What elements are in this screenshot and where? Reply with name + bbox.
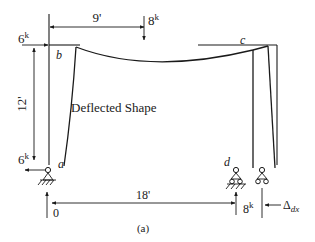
deflected-shape-label: Deflected Shape — [71, 100, 157, 115]
load-value-6k-top: 6k — [18, 30, 30, 46]
load-6k-top: 6k — [18, 30, 48, 46]
roller-support-d — [226, 167, 246, 189]
dimension-label-12ft: 12' — [14, 96, 29, 111]
joint-label-a: a — [58, 157, 64, 171]
pin-d — [233, 167, 238, 172]
roller-wheel-displaced-1 — [256, 179, 261, 184]
displacement-dx: Δdx — [262, 188, 299, 218]
hatch-d-3 — [236, 184, 240, 189]
roller-wheel-d-1 — [230, 179, 235, 184]
hatch-d-1 — [226, 184, 230, 189]
pin-a — [45, 167, 50, 172]
dimension-label-18ft: 18' — [136, 188, 150, 202]
roller-triangle-displaced — [257, 173, 267, 179]
joint-label-c: c — [240, 33, 246, 47]
roller-triangle-d — [231, 173, 241, 179]
reaction-value-0-a: 0 — [53, 206, 59, 220]
roller-wheel-displaced-2 — [264, 179, 269, 184]
displacement-label: Δdx — [283, 198, 299, 214]
dimension-18ft: 18' — [52, 188, 235, 203]
joint-label-d: d — [224, 155, 231, 169]
dimension-label-9ft: 9' — [93, 10, 102, 25]
reaction-value-8k-d: 8k — [243, 200, 254, 216]
load-value-8k-top: 8k — [148, 12, 160, 28]
hatch-d-2 — [231, 184, 235, 189]
figure-caption: (a) — [137, 222, 150, 235]
joint-label-b: b — [56, 48, 62, 62]
hatch-a-1 — [38, 180, 42, 185]
frame-diagram: 9' 8k 6k b c a d 12' Deflected Shape 6k … — [0, 0, 315, 242]
deflected-column-right — [268, 46, 275, 168]
dimension-9ft: 9' — [50, 10, 144, 27]
hatch-a-3 — [46, 180, 50, 185]
reaction-6k-a: 6k — [18, 151, 45, 170]
reaction-8k-d: 8k — [236, 192, 254, 216]
roller-wheel-d-2 — [238, 179, 243, 184]
roller-support-displaced — [256, 167, 269, 183]
hatch-a-2 — [42, 180, 46, 185]
load-8k-top: 8k — [144, 12, 160, 40]
hatch-a-4 — [50, 180, 54, 185]
dimension-12ft: 12' — [14, 48, 34, 160]
reaction-0-a: 0 — [47, 192, 59, 220]
reaction-value-6k-a: 6k — [18, 151, 30, 167]
hatch-d-4 — [241, 184, 245, 189]
pin-displaced — [259, 167, 264, 172]
pin-triangle-a — [43, 173, 53, 180]
deflected-beam-bc — [76, 47, 253, 62]
deflected-beam-c-segment — [253, 46, 268, 50]
